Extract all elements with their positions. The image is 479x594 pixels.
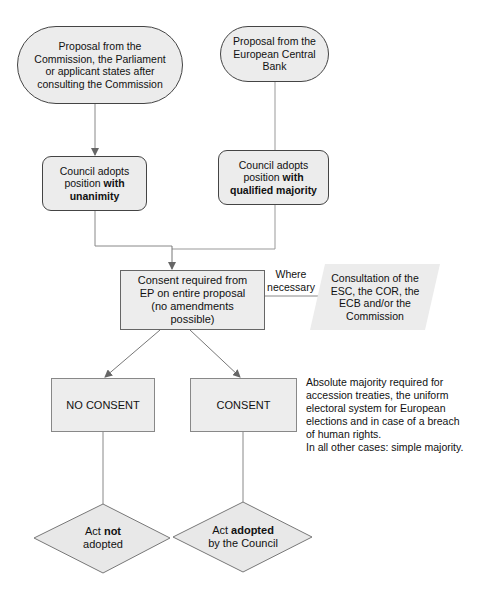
no-consent-label: NO CONSENT (66, 399, 139, 412)
where-necessary-line1: Where (262, 268, 320, 281)
proposal-commission-line4: consulting the Commission (34, 78, 165, 91)
consent-required-line3: (no amendments (138, 300, 247, 313)
act-adopted-normal: Act (212, 524, 231, 536)
node-proposal-commission: Proposal from the Commission, the Parlia… (17, 26, 183, 104)
note-line2: accession treaties, the uniform (306, 389, 478, 402)
node-consultation: Consultation of the ESC, the COR, the EC… (318, 266, 432, 328)
node-act-adopted: Act adopted by the Council (193, 519, 293, 555)
act-not-adopted-bold: not (104, 525, 121, 537)
edge-label-where-necessary: Where necessary (262, 268, 320, 293)
act-adopted-line2: by the Council (208, 537, 278, 550)
consultation-line3: ECB and/or the (331, 297, 420, 310)
proposal-commission-line3: or applicant states after (34, 65, 165, 78)
consent-required-line4: possible) (138, 313, 247, 326)
consultation-line2: ESC, the COR, the (331, 285, 420, 298)
council-unanimity-line2-bold: with (104, 177, 125, 189)
consent-required-line1: Consent required from (138, 274, 247, 287)
proposal-commission-line2: Commission, the Parliament (34, 53, 165, 66)
node-proposal-ecb: Proposal from the European Central Bank (220, 26, 329, 82)
majority-note: Absolute majority required for accession… (306, 376, 478, 454)
edge-to-no-consent (105, 330, 160, 377)
consent-label: CONSENT (217, 399, 271, 412)
proposal-ecb-line3: Bank (233, 60, 316, 73)
consent-required-line2: EP on entire proposal (138, 287, 247, 300)
council-qmv-line1: Council adopts (230, 159, 317, 172)
note-line1: Absolute majority required for (306, 376, 478, 389)
edge-qmv-to-consent-required (172, 205, 275, 249)
edge-to-consent (190, 330, 240, 377)
proposal-ecb-line2: European Central (233, 48, 316, 61)
act-adopted-bold: adopted (231, 524, 274, 536)
node-consent: CONSENT (190, 378, 297, 432)
council-qmv-line2-bold: with (283, 171, 304, 183)
council-unanimity-line1: Council adopts (60, 165, 129, 178)
edge-unanimity-to-consent-required (95, 211, 172, 246)
proposal-commission-line1: Proposal from the (34, 40, 165, 53)
consultation-line1: Consultation of the (331, 272, 420, 285)
note-line3: electoral system for European (306, 402, 478, 415)
node-consent-required: Consent required from EP on entire propo… (120, 270, 265, 330)
council-qmv-line3-bold: qualified majority (230, 184, 317, 196)
council-unanimity-line2-normal: position (64, 177, 103, 189)
note-line4: elections and in case of a breach (306, 415, 478, 428)
node-act-not-adopted: Act not adopted (58, 520, 148, 556)
council-qmv-line2-normal: position (243, 171, 282, 183)
note-line5: of human rights. (306, 428, 478, 441)
node-no-consent: NO CONSENT (51, 378, 155, 432)
proposal-ecb-line1: Proposal from the (233, 35, 316, 48)
node-council-qmv: Council adopts position with qualified m… (218, 150, 329, 205)
act-not-adopted-line2: adopted (83, 538, 123, 551)
node-council-unanimity: Council adopts position with unanimity (42, 156, 147, 211)
note-line6: In all other cases: simple majority. (306, 441, 478, 454)
consultation-line4: Commission (331, 310, 420, 323)
where-necessary-line2: necessary (262, 281, 320, 294)
council-unanimity-line3-bold: unanimity (70, 190, 120, 202)
act-not-adopted-normal: Act (85, 525, 104, 537)
